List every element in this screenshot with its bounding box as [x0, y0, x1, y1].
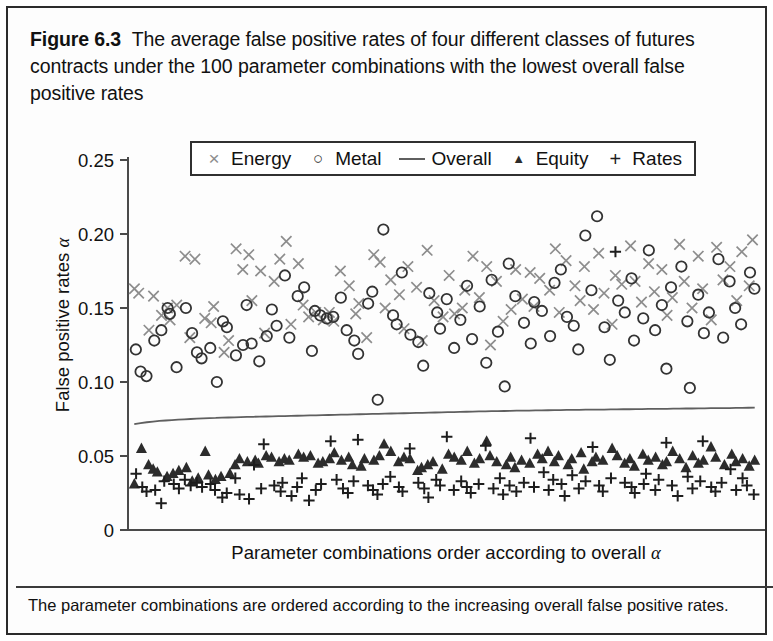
legend-item-metal: ○ Metal: [308, 148, 381, 170]
cross-marker-icon: ×: [204, 149, 224, 168]
y-tick-label: 0.25: [78, 150, 114, 171]
legend-label-overall: Overall: [432, 148, 492, 170]
legend-item-equity: ▲ Equity: [509, 148, 589, 170]
chart-legend: × Energy ○ Metal Overall ▲ Equity + R: [190, 141, 696, 176]
figure-caption: The parameter combinations are ordered a…: [28, 594, 758, 616]
y-tick-label: 0.10: [78, 372, 114, 393]
legend-item-energy: × Energy: [204, 148, 291, 170]
series-overall: [134, 408, 754, 425]
y-axis-label-text: False positive rates: [52, 248, 73, 413]
x-axis-label-text: Parameter combinations order according t…: [231, 542, 651, 563]
legend-item-rates: + Rates: [605, 148, 682, 170]
y-tick-label: 0: [104, 520, 114, 538]
triangle-marker-icon: ▲: [509, 152, 529, 165]
figure-title: Figure 6.3 The average false positive ra…: [30, 26, 750, 107]
circle-marker-icon: ○: [308, 150, 328, 167]
line-marker-icon: [399, 158, 425, 160]
figure-frame: Figure 6.3 The average false positive ra…: [6, 6, 767, 635]
legend-label-equity: Equity: [536, 148, 589, 170]
y-axis-label: False positive rates α: [52, 200, 74, 450]
y-tick-label: 0.05: [78, 446, 114, 467]
legend-label-energy: Energy: [231, 148, 291, 170]
plus-marker-icon: +: [605, 149, 625, 169]
y-tick-label: 0.20: [78, 224, 114, 245]
x-axis-label: Parameter combinations order according t…: [126, 542, 766, 564]
series-metal: [131, 211, 760, 405]
y-axis-ticks: 00.050.100.150.200.25: [78, 150, 128, 538]
plot-axes: [128, 157, 765, 530]
legend-item-overall: Overall: [399, 148, 492, 170]
caption-divider: [16, 586, 773, 588]
figure-number: Figure 6.3: [30, 28, 121, 50]
y-tick-label: 0.15: [78, 298, 114, 319]
legend-label-rates: Rates: [632, 148, 682, 170]
scatter-plot-svg: 00.050.100.150.200.25: [16, 118, 773, 538]
y-axis-alpha-symbol: α: [53, 238, 73, 248]
x-axis-alpha-symbol: α: [651, 543, 661, 563]
figure-page: Figure 6.3 The average false positive ra…: [0, 0, 773, 641]
chart-area: False positive rates α 00.050.100.150.20…: [16, 118, 773, 578]
legend-label-metal: Metal: [335, 148, 381, 170]
